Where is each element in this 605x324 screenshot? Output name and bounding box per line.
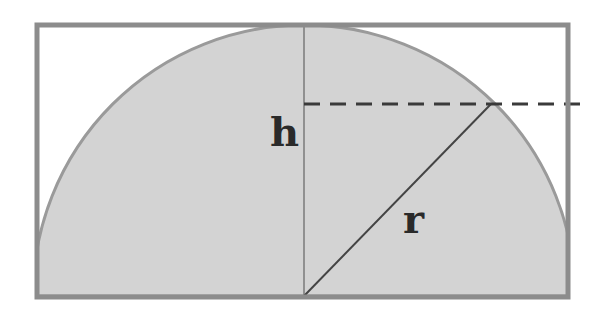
semicircle-diagram: h r: [0, 0, 605, 324]
height-label: h: [270, 108, 299, 155]
diagram-canvas: h r: [0, 0, 605, 324]
radius-label: r: [403, 195, 425, 242]
